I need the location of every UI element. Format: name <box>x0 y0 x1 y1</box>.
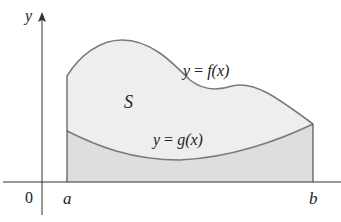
region-s-label: S <box>124 93 133 111</box>
curve-f-label-eq: = <box>194 62 203 79</box>
area-between-curves-diagram: y 0 a b S y = f(x) y = g(x) <box>0 0 341 222</box>
curve-g-label-rhs: g(x) <box>177 131 203 148</box>
origin-label: 0 <box>25 190 33 206</box>
diagram-graphics <box>0 0 341 222</box>
curve-g-label: y = g(x) <box>153 132 203 148</box>
curve-g-label-eq: = <box>164 131 173 148</box>
curve-f-label-lhs: y <box>183 62 190 79</box>
y-axis-label: y <box>25 8 32 24</box>
curve-f-label-rhs: f(x) <box>207 62 229 79</box>
curve-f-label: y = f(x) <box>183 63 229 79</box>
curve-g-label-lhs: y <box>153 131 160 148</box>
bound-a-label: a <box>63 190 72 207</box>
bound-b-label: b <box>309 190 318 207</box>
